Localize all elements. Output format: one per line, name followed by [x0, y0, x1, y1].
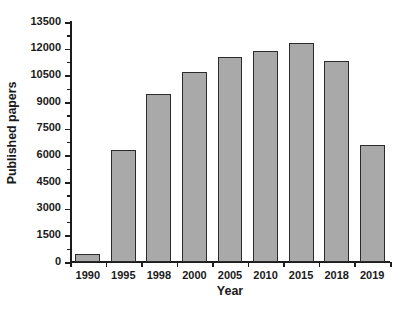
- bar: [360, 145, 385, 262]
- y-axis-title-text: Published papers: [5, 81, 19, 184]
- x-axis-title: Year: [70, 284, 390, 298]
- y-tick-minor-mark: [67, 142, 70, 143]
- x-tick-label: 1995: [111, 269, 135, 281]
- y-tick-label: 7500: [37, 121, 61, 133]
- y-tick-mark: [65, 235, 70, 237]
- y-tick-minor-mark: [67, 195, 70, 196]
- chart-figure: Published papers 01500300045006000750090…: [0, 0, 405, 309]
- y-tick-mark: [65, 155, 70, 157]
- y-tick-label: 3000: [37, 201, 61, 213]
- x-tick-label: 2019: [360, 269, 384, 281]
- y-tick-minor-mark: [67, 62, 70, 63]
- plot-area: 0150030004500600075009000105001200013500…: [70, 22, 390, 262]
- x-tick-mark: [141, 262, 143, 267]
- bar: [324, 61, 349, 262]
- y-tick-minor-mark: [67, 89, 70, 90]
- y-tick-mark: [65, 209, 70, 211]
- x-tick-mark: [319, 262, 321, 267]
- y-tick-mark: [65, 75, 70, 77]
- x-tick-mark: [283, 262, 285, 267]
- bar: [253, 51, 278, 262]
- bar: [218, 57, 243, 262]
- y-tick-mark: [65, 49, 70, 51]
- y-axis-title: Published papers: [0, 0, 24, 265]
- y-tick-label: 12000: [30, 41, 61, 53]
- bar: [182, 72, 207, 262]
- y-tick-minor-mark: [67, 169, 70, 170]
- y-tick-label: 9000: [37, 95, 61, 107]
- x-tick-mark: [390, 262, 392, 267]
- bar: [111, 150, 136, 262]
- y-tick-minor-mark: [67, 35, 70, 36]
- x-tick-label: 2005: [218, 269, 242, 281]
- x-tick-mark: [70, 262, 72, 267]
- y-tick-minor-mark: [67, 115, 70, 116]
- y-tick-label: 0: [55, 255, 61, 267]
- bar: [146, 94, 171, 262]
- bar: [75, 254, 100, 262]
- y-tick-mark: [65, 102, 70, 104]
- x-tick-label: 2000: [182, 269, 206, 281]
- y-tick-label: 1500: [37, 228, 61, 240]
- x-tick-label: 2018: [324, 269, 348, 281]
- x-tick-mark: [354, 262, 356, 267]
- x-tick-mark: [177, 262, 179, 267]
- x-tick-label: 2010: [253, 269, 277, 281]
- x-tick-label: 1998: [147, 269, 171, 281]
- bar: [289, 43, 314, 262]
- x-tick-label: 2015: [289, 269, 313, 281]
- y-tick-minor-mark: [67, 222, 70, 223]
- y-tick-label: 10500: [30, 68, 61, 80]
- y-tick-mark: [65, 22, 70, 24]
- y-tick-label: 6000: [37, 148, 61, 160]
- y-tick-minor-mark: [67, 249, 70, 250]
- x-tick-mark: [248, 262, 250, 267]
- y-tick-label: 4500: [37, 175, 61, 187]
- y-tick-label: 13500: [30, 15, 61, 27]
- y-tick-mark: [65, 129, 70, 131]
- x-tick-mark: [106, 262, 108, 267]
- x-tick-label: 1990: [76, 269, 100, 281]
- y-tick-mark: [65, 182, 70, 184]
- x-tick-mark: [212, 262, 214, 267]
